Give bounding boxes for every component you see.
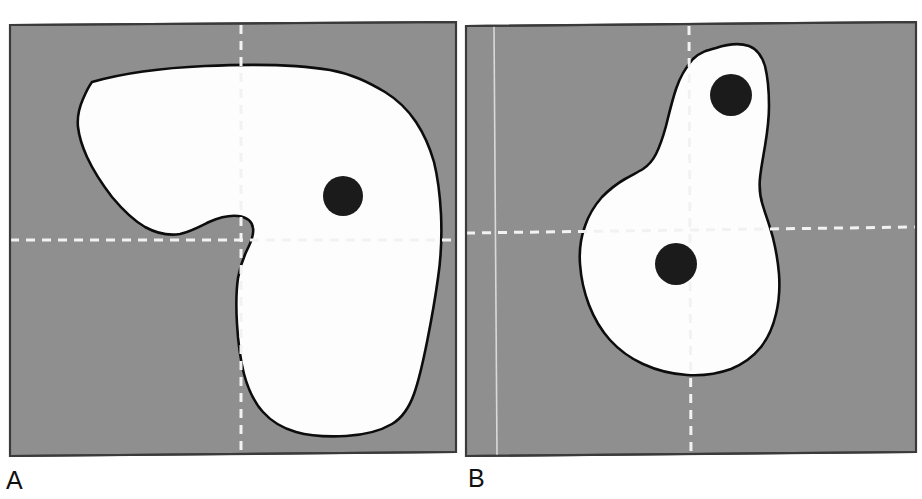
- marker-b-2[interactable]: [655, 243, 697, 285]
- panel-b[interactable]: [460, 0, 922, 466]
- figure-root: A B: [0, 0, 922, 499]
- panel-a[interactable]: [0, 0, 461, 466]
- panel-label-b: B: [468, 466, 485, 491]
- marker-b-1[interactable]: [710, 74, 752, 116]
- panel-b-canvas: [460, 0, 922, 466]
- marker-a-1[interactable]: [323, 176, 363, 216]
- panel-label-a: A: [6, 468, 23, 493]
- panel-a-canvas: [0, 0, 461, 466]
